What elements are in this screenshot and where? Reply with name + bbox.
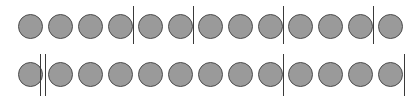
token-circle bbox=[228, 62, 253, 87]
token-circle bbox=[378, 62, 403, 87]
token-circle bbox=[318, 14, 343, 39]
separator-stroke bbox=[40, 54, 41, 96]
separator-single-line bbox=[373, 6, 374, 44]
token-row-top bbox=[0, 0, 414, 50]
separator-single-line bbox=[283, 54, 284, 96]
token-circle bbox=[288, 62, 313, 87]
token-circle bbox=[258, 62, 283, 87]
token-circle bbox=[18, 14, 43, 39]
token-circle bbox=[168, 14, 193, 39]
token-circle bbox=[258, 14, 283, 39]
token-circle bbox=[348, 62, 373, 87]
token-circle bbox=[288, 14, 313, 39]
token-circle bbox=[378, 14, 403, 39]
separator-stroke bbox=[45, 54, 46, 96]
separator-double-line bbox=[40, 54, 47, 96]
token-circle bbox=[348, 14, 373, 39]
token-circle bbox=[198, 14, 223, 39]
token-circle bbox=[78, 14, 103, 39]
token-circle bbox=[48, 14, 73, 39]
token-circle bbox=[228, 14, 253, 39]
token-circle bbox=[48, 62, 73, 87]
token-circle bbox=[168, 62, 193, 87]
token-row-bottom bbox=[0, 50, 414, 101]
token-circle bbox=[138, 14, 163, 39]
separator-single-line bbox=[404, 54, 405, 96]
token-circle bbox=[108, 14, 133, 39]
token-circle bbox=[138, 62, 163, 87]
token-circle bbox=[198, 62, 223, 87]
token-circle bbox=[318, 62, 343, 87]
token-circle bbox=[78, 62, 103, 87]
separator-single-line bbox=[193, 6, 194, 44]
figure-canvas bbox=[0, 0, 414, 101]
separator-single-line bbox=[133, 6, 134, 44]
separator-single-line bbox=[283, 6, 284, 44]
token-circle bbox=[108, 62, 133, 87]
